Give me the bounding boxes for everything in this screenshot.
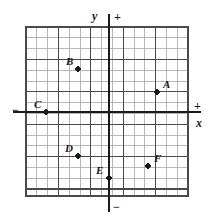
grid-and-axes-canvas	[0, 0, 213, 223]
data-point-dot-e[interactable]	[106, 175, 111, 180]
point-label-e: E	[96, 165, 103, 176]
x-axis-positive-sign: +	[194, 100, 201, 112]
coordinate-plane-figure: ABCDEF y + − x + −	[0, 0, 213, 223]
y-axis-positive-sign: +	[114, 11, 121, 23]
data-point-dot-d[interactable]	[75, 153, 80, 158]
axis-lines	[13, 14, 201, 212]
y-axis-negative-sign: −	[113, 201, 120, 213]
y-axis-label: y	[92, 10, 97, 22]
x-axis-label: x	[196, 117, 202, 129]
point-label-a: A	[163, 79, 170, 90]
data-point-dot-a[interactable]	[154, 89, 159, 94]
point-label-b: B	[66, 56, 73, 67]
point-label-d: D	[65, 143, 73, 154]
data-point-dot-b[interactable]	[75, 66, 80, 71]
point-label-f: F	[154, 153, 161, 164]
data-point-dot-c[interactable]	[43, 109, 48, 114]
x-axis-negative-sign: −	[12, 104, 19, 116]
point-label-c: C	[34, 99, 41, 110]
data-point-dot-f[interactable]	[145, 163, 150, 168]
